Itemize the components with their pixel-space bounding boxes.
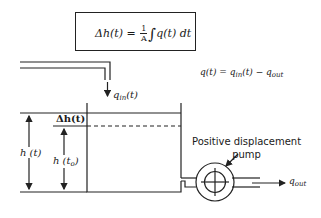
h-t-label: h (t) — [20, 147, 41, 158]
flow-equation: q(t) = qin(t) − qout — [200, 67, 283, 79]
frac-num: 1 — [140, 24, 147, 34]
delta-h-label: Δh(t) — [56, 113, 85, 124]
inlet-pipe — [20, 62, 110, 80]
pump-label-line1: Positive displacement — [192, 135, 301, 148]
integral-sign: ∫ — [148, 25, 156, 43]
q-in-label: qin(t) — [113, 89, 138, 102]
integrand: q(t) dt — [156, 27, 191, 40]
pump-label: Positive displacement pump — [192, 135, 301, 161]
fraction: 1A — [140, 24, 147, 43]
h-t0-main: h (t — [53, 155, 71, 166]
flow-eq-lhs: q(t) = q — [200, 67, 235, 77]
q-out-sub: out — [295, 180, 307, 188]
q-in-tail: (t) — [126, 89, 138, 100]
frac-den: A — [140, 34, 147, 43]
accumulation-formula-box: Δh(t) = 1A∫q(t) dt — [75, 12, 196, 51]
formula-lhs: Δh(t) = — [95, 27, 136, 40]
pump-label-line2: pump — [192, 148, 301, 161]
q-out-label: qout — [289, 176, 306, 188]
tank — [87, 103, 181, 192]
h-t0-tail: ) — [75, 155, 79, 166]
flow-eq-out-sub: out — [272, 71, 284, 79]
accumulation-formula: Δh(t) = 1A∫q(t) dt — [95, 24, 191, 43]
flow-eq-mid: (t) − q — [242, 67, 272, 77]
h-t0-label: h (to) — [53, 155, 79, 168]
